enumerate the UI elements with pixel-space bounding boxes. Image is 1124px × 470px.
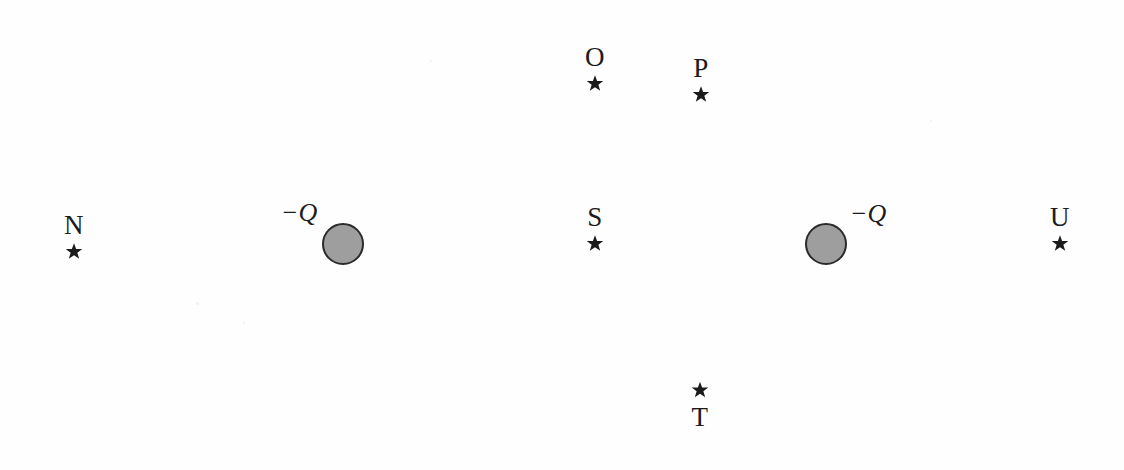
- point-marker-u[interactable]: U: [1050, 204, 1070, 253]
- point-marker-s[interactable]: S: [586, 204, 604, 253]
- charge-label-right-text: −Q: [850, 199, 886, 228]
- paper-speckle: [196, 302, 199, 305]
- charge-sphere-right[interactable]: [805, 223, 847, 265]
- point-label-p: P: [693, 55, 709, 82]
- point-label-n: N: [64, 212, 84, 239]
- charge-sphere-left[interactable]: [322, 223, 364, 265]
- point-label-u: U: [1050, 204, 1070, 231]
- star-icon: [1051, 235, 1069, 253]
- star-icon: [586, 235, 604, 253]
- paper-speckle: [430, 60, 432, 62]
- star-icon: [691, 381, 709, 399]
- paper-speckle: [930, 120, 932, 122]
- point-marker-n[interactable]: N: [64, 212, 84, 261]
- charge-label-right: −Q: [850, 201, 886, 227]
- point-marker-p[interactable]: P: [692, 55, 710, 104]
- charge-label-left: −Q: [281, 200, 317, 226]
- point-label-t: T: [692, 404, 709, 431]
- physics-diagram-canvas: N O P S T: [0, 0, 1124, 470]
- charge-label-left-text: −Q: [281, 198, 317, 227]
- point-label-o: O: [585, 44, 605, 71]
- point-marker-o[interactable]: O: [585, 44, 605, 93]
- star-icon: [692, 86, 710, 104]
- paper-speckle: [243, 322, 245, 324]
- point-marker-t[interactable]: T: [691, 381, 709, 431]
- star-icon: [65, 243, 83, 261]
- star-icon: [586, 75, 604, 93]
- point-label-s: S: [587, 204, 603, 231]
